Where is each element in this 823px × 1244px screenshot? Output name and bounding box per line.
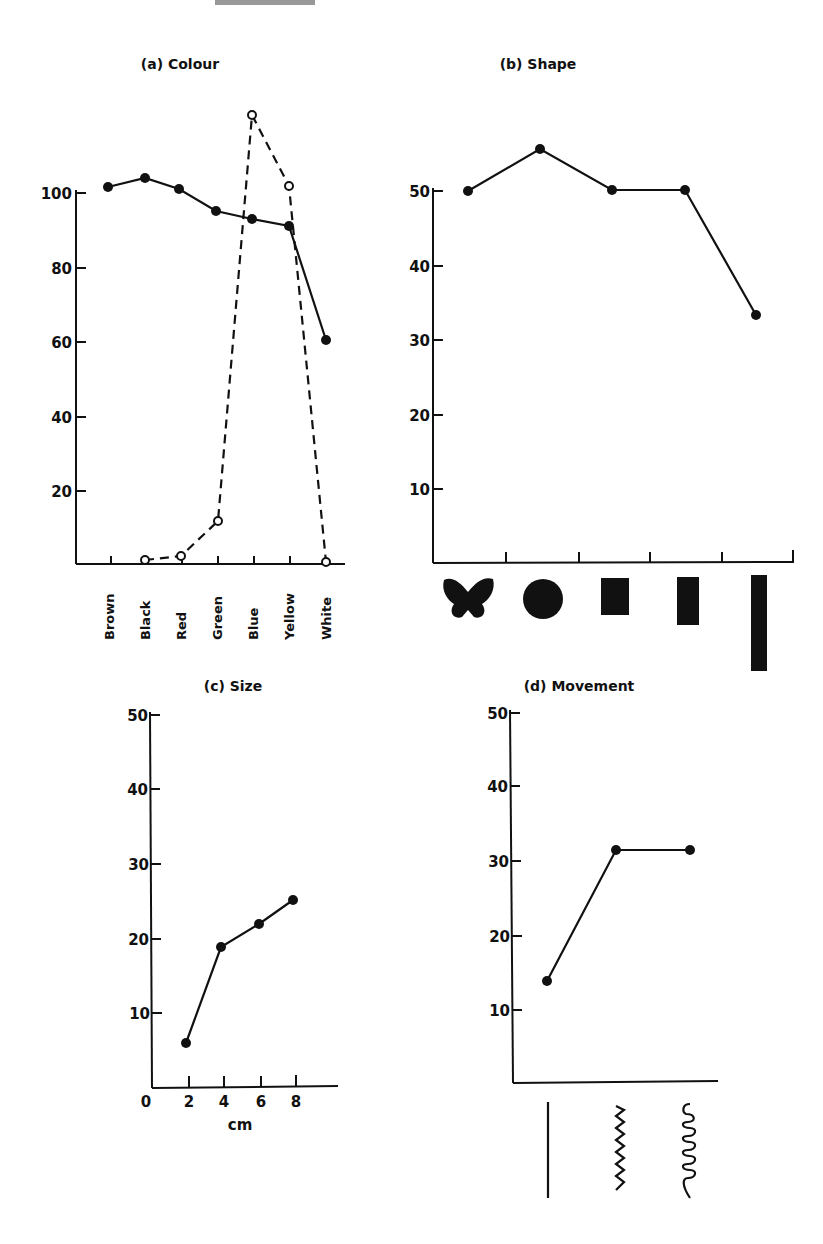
panel-b-line bbox=[468, 149, 756, 315]
tick-label: 80 bbox=[51, 260, 72, 278]
panel-d-title: (d) Movement bbox=[524, 678, 635, 694]
circle-icon bbox=[523, 579, 563, 619]
panel-d-line bbox=[547, 850, 690, 981]
spiral-icon bbox=[683, 1104, 695, 1198]
tick-label: 100 bbox=[41, 185, 72, 203]
tick-label: 40 bbox=[487, 778, 508, 796]
panel-b-markers bbox=[463, 144, 761, 320]
panel-d-markers bbox=[542, 845, 695, 986]
panel-b-y-ticks: 50 40 30 20 10 bbox=[409, 183, 443, 499]
tick-label: 20 bbox=[51, 483, 72, 501]
x-axis-label: cm bbox=[228, 1116, 253, 1134]
panel-a-dashed-markers bbox=[141, 111, 330, 566]
rectangle-icon bbox=[677, 577, 699, 625]
cropped-header bbox=[215, 0, 315, 5]
zigzag-icon bbox=[616, 1106, 624, 1190]
panel-b-shape: (b) Shape 50 40 30 20 10 bbox=[409, 56, 794, 671]
tick-label: 40 bbox=[409, 258, 430, 276]
tick-label: 50 bbox=[409, 183, 430, 201]
tick-label: 50 bbox=[487, 705, 508, 723]
panel-b-stimuli bbox=[443, 575, 767, 671]
category-label: Brown bbox=[102, 593, 117, 640]
panel-a-categories: Brown Black Red Green Blue Yellow White bbox=[102, 593, 334, 641]
tick-label: 20 bbox=[489, 928, 510, 946]
tick-label: 30 bbox=[409, 332, 430, 350]
tick-label: 2 bbox=[184, 1093, 194, 1111]
tick-label: 0 bbox=[141, 1093, 151, 1111]
category-label: Green bbox=[210, 596, 225, 640]
panel-c-title: (c) Size bbox=[204, 678, 263, 694]
panel-d-stimuli bbox=[548, 1102, 695, 1198]
panel-d-y-axis bbox=[510, 710, 513, 1083]
panel-c-x-ticks: 0 2 4 6 8 cm bbox=[141, 1075, 301, 1134]
square-icon bbox=[601, 578, 629, 615]
tick-label: 40 bbox=[51, 409, 72, 427]
category-label: Blue bbox=[246, 607, 261, 640]
tick-label: 8 bbox=[291, 1093, 301, 1111]
tick-label: 10 bbox=[489, 1002, 510, 1020]
panel-d-movement: (d) Movement 50 40 30 20 10 bbox=[487, 678, 718, 1198]
panel-a-dashed-line bbox=[145, 115, 326, 562]
panel-c-markers bbox=[181, 895, 298, 1048]
panel-c-size: (c) Size 50 40 30 20 10 0 2 4 6 8 cm bbox=[127, 678, 338, 1134]
panel-a-y-ticks: 100 80 60 40 20 bbox=[41, 185, 86, 501]
category-label: Red bbox=[174, 612, 189, 640]
tick-label: 20 bbox=[128, 931, 149, 949]
panel-a-title: (a) Colour bbox=[141, 56, 219, 72]
panel-c-y-axis bbox=[150, 712, 152, 1088]
tick-label: 10 bbox=[409, 481, 430, 499]
tick-label: 60 bbox=[51, 334, 72, 352]
tick-label: 50 bbox=[127, 707, 148, 725]
panel-a-x-ticks bbox=[111, 556, 290, 564]
tick-label: 30 bbox=[128, 856, 149, 874]
panel-d-x-axis bbox=[513, 1081, 718, 1083]
figure: (a) Colour 100 80 60 40 20 B bbox=[0, 0, 823, 1244]
category-label: White bbox=[319, 597, 334, 640]
panel-b-x-axis bbox=[433, 562, 794, 563]
panel-a-colour: (a) Colour 100 80 60 40 20 B bbox=[41, 56, 345, 641]
tick-label: 4 bbox=[219, 1093, 229, 1111]
category-label: Black bbox=[138, 600, 153, 640]
panel-b-x-ticks bbox=[506, 550, 793, 563]
long-bar-icon bbox=[751, 575, 767, 671]
tick-label: 30 bbox=[488, 853, 509, 871]
tick-label: 40 bbox=[127, 781, 148, 799]
panel-b-title: (b) Shape bbox=[500, 56, 577, 72]
panel-c-x-axis bbox=[152, 1086, 338, 1088]
panel-c-y-ticks: 50 40 30 20 10 bbox=[127, 707, 162, 1023]
tick-label: 20 bbox=[409, 407, 430, 425]
butterfly-icon bbox=[443, 578, 494, 617]
panel-d-y-ticks: 50 40 30 20 10 bbox=[487, 705, 522, 1020]
tick-label: 6 bbox=[256, 1093, 266, 1111]
category-label: Yellow bbox=[282, 593, 297, 641]
panel-c-line bbox=[186, 900, 293, 1043]
panel-a-solid-line bbox=[108, 178, 326, 340]
tick-label: 10 bbox=[129, 1005, 150, 1023]
